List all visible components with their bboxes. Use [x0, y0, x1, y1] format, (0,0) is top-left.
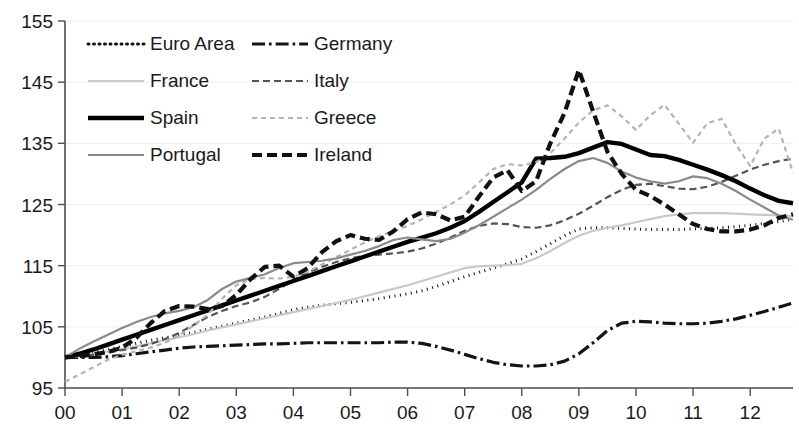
- x-tick-label: 01: [112, 402, 133, 423]
- x-tick-label: 07: [454, 402, 475, 423]
- x-tick-label: 02: [169, 402, 190, 423]
- y-tick-label: 145: [21, 72, 53, 93]
- x-tick-label: 11: [683, 402, 703, 423]
- x-tick-label: 03: [226, 402, 247, 423]
- gridlines-group: [65, 21, 793, 327]
- legend-label: Portugal: [150, 144, 221, 165]
- line-chart-svg: 95105115125135145155 0001020304050607080…: [0, 0, 799, 440]
- legend-label: Euro Area: [150, 33, 235, 54]
- legend-item-italy[interactable]: Italy: [252, 70, 349, 91]
- legend-label: Italy: [314, 70, 349, 91]
- legend-label: Spain: [150, 107, 199, 128]
- y-tick-label: 135: [21, 133, 53, 154]
- legend-label: France: [150, 70, 209, 91]
- series-line-italy: [65, 159, 793, 358]
- legend-item-greece[interactable]: Greece: [252, 107, 376, 128]
- legend-item-ireland[interactable]: Ireland: [252, 144, 372, 165]
- legend-item-spain[interactable]: Spain: [88, 107, 199, 128]
- x-tick-label: 06: [397, 402, 418, 423]
- chart-legend: Euro AreaGermanyFranceItalySpainGreecePo…: [88, 33, 393, 165]
- y-axis-ticks: 95105115125135145155: [21, 11, 65, 399]
- x-tick-label: 08: [511, 402, 532, 423]
- series-line-spain: [65, 142, 793, 357]
- x-tick-label: 09: [568, 402, 589, 423]
- x-tick-label: 00: [54, 402, 75, 423]
- legend-item-portugal[interactable]: Portugal: [88, 144, 221, 165]
- chart-container: 95105115125135145155 0001020304050607080…: [0, 0, 799, 440]
- x-tick-label: 10: [625, 402, 646, 423]
- legend-label: Greece: [314, 107, 376, 128]
- legend-label: Ireland: [314, 144, 372, 165]
- legend-item-germany[interactable]: Germany: [252, 33, 393, 54]
- x-tick-label: 04: [283, 402, 305, 423]
- y-tick-label: 115: [23, 256, 53, 277]
- y-tick-label: 95: [32, 378, 53, 399]
- x-tick-label: 12: [740, 402, 761, 423]
- y-tick-label: 155: [21, 11, 53, 32]
- legend-item-euro-area[interactable]: Euro Area: [88, 33, 235, 54]
- legend-item-france[interactable]: France: [88, 70, 209, 91]
- legend-label: Germany: [314, 33, 393, 54]
- x-tick-label: 05: [340, 402, 361, 423]
- y-tick-label: 105: [21, 317, 53, 338]
- y-tick-label: 125: [21, 195, 53, 216]
- x-axis-ticks: 00010203040506070809101112: [54, 388, 760, 423]
